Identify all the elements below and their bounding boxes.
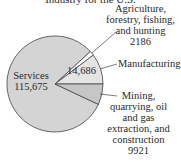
mining-line-3: and gas: [96, 112, 181, 123]
agri-line-2: forestry, fishing,: [100, 14, 181, 25]
agri-value: 2186: [100, 36, 181, 47]
services-name: Services: [5, 70, 57, 81]
agri-line-3: and hunting: [100, 25, 181, 36]
mining-line-1: Mining,: [96, 90, 181, 101]
mining-line-5: construction: [96, 134, 181, 145]
label-services: Services 115,675: [5, 70, 57, 92]
mining-line-2: quarrying, oil: [96, 101, 181, 112]
mining-value: 9921: [96, 145, 181, 156]
label-agriculture: Agriculture, forestry, fishing, and hunt…: [100, 3, 181, 47]
mining-line-4: extraction, and: [96, 123, 181, 134]
agri-line-1: Agriculture,: [100, 3, 181, 14]
leader-manufacturing: [100, 64, 117, 69]
services-value: 115,675: [5, 81, 57, 92]
label-manufacturing: Manufacturing: [118, 58, 180, 69]
label-manufacturing-value: 14,686: [67, 65, 96, 76]
label-mining: Mining, quarrying, oil and gas extractio…: [96, 90, 181, 156]
